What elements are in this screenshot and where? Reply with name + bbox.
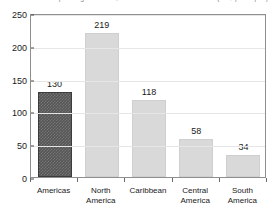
y-axis-tick-label: 250 — [12, 11, 27, 20]
x-axis-label: North America — [77, 186, 124, 206]
chart-title: Spending on health, 2000 — [0, 0, 190, 1]
bar-slot: 219 — [78, 15, 125, 177]
y-axis-tick-mark — [31, 80, 34, 81]
gridline — [31, 81, 265, 82]
y-axis-tick-label: 150 — [12, 76, 27, 85]
chart-header: Spending on health, 2000 (US$ per capita… — [0, 0, 274, 9]
x-axis-label-line: Caribbean — [124, 186, 171, 196]
bar-south-america[interactable] — [226, 155, 260, 177]
plot-area: 1302191185834 050100150200250 — [30, 14, 266, 178]
x-axis-label: Caribbean — [124, 186, 171, 196]
chart-unit-label: (US$ per capita) — [217, 0, 268, 1]
bar-north-america[interactable] — [85, 33, 119, 177]
y-axis-tick-mark — [31, 179, 34, 180]
y-axis-tick-mark — [31, 113, 34, 114]
x-axis-label-line: Central — [172, 186, 219, 196]
y-axis-tick-label: 200 — [12, 43, 27, 52]
y-axis-tick-label: 0 — [22, 175, 27, 184]
x-axis-labels: AmericasNorth AmericaCaribbeanCentralAme… — [30, 186, 266, 212]
bar-americas[interactable] — [38, 92, 72, 177]
y-axis-tick-label: 100 — [12, 109, 27, 118]
y-axis-tick-mark — [31, 146, 34, 147]
bars-layer: 1302191185834 — [31, 15, 265, 177]
bar-value-label: 58 — [191, 127, 201, 136]
x-axis-tick-mark — [219, 178, 220, 182]
bar-slot: 58 — [173, 15, 220, 177]
x-axis-tick-mark — [172, 178, 173, 182]
x-axis-label: Americas — [30, 186, 77, 196]
x-axis-label-line: North America — [77, 186, 124, 206]
y-axis-tick-mark — [31, 47, 34, 48]
bar-value-label: 219 — [94, 21, 109, 30]
bar-chart: Spending on health, 2000 (US$ per capita… — [0, 0, 274, 214]
gridline — [31, 48, 265, 49]
bar-central-america[interactable] — [179, 139, 213, 177]
bar-value-label: 118 — [142, 88, 156, 97]
x-axis-tick-mark — [77, 178, 78, 182]
bar-slot: 118 — [125, 15, 172, 177]
x-axis-label: CentralAmerica — [172, 186, 219, 206]
gridline — [31, 15, 265, 16]
x-axis-tick-mark — [30, 178, 31, 182]
bar-value-label: 34 — [238, 143, 248, 152]
bar-slot: 34 — [220, 15, 267, 177]
gridline — [31, 146, 265, 147]
y-axis-tick-mark — [31, 15, 34, 16]
x-axis-tick-mark — [266, 178, 267, 182]
x-axis-tick-mark — [124, 178, 125, 182]
bar-caribbean[interactable] — [132, 100, 166, 177]
x-axis-label: South America — [219, 186, 266, 206]
x-axis-label-line: South America — [219, 186, 266, 206]
x-axis-label-line: America — [172, 196, 219, 206]
gridline — [31, 113, 265, 114]
bar-slot: 130 — [31, 15, 78, 177]
x-axis-label-line: Americas — [30, 186, 77, 196]
y-axis-tick-label: 50 — [17, 142, 27, 151]
